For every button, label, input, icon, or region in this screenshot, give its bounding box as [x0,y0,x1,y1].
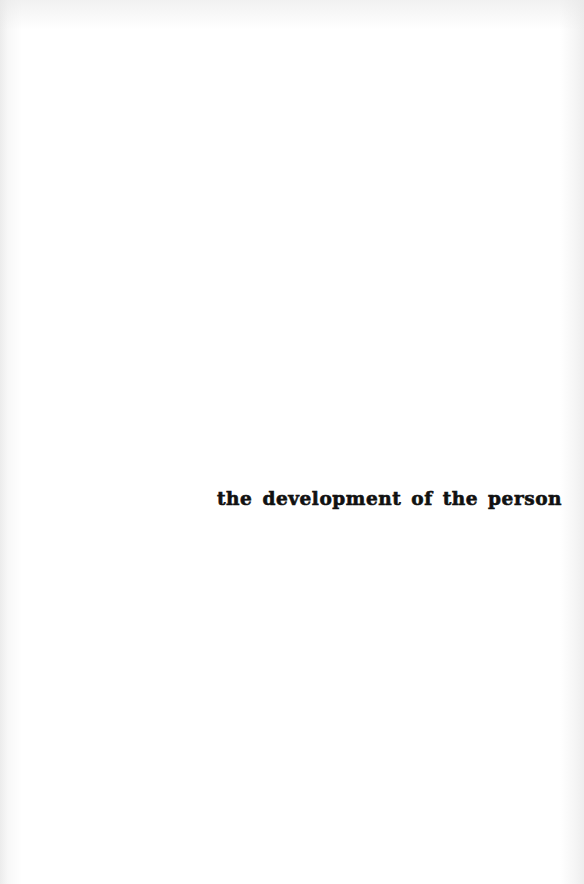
book-page: the development of the person [0,0,584,884]
section-title: the development of the person [217,487,553,511]
